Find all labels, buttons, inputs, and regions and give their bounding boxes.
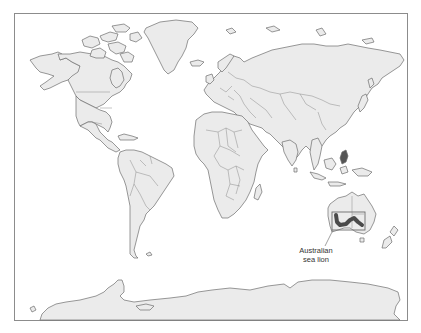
south-america (118, 150, 174, 258)
africa (194, 112, 268, 218)
label-line-1: Australian (286, 246, 346, 255)
label-leader-line (325, 230, 333, 246)
north-america (30, 20, 204, 152)
australia (325, 192, 398, 248)
antarctica (30, 280, 400, 320)
world-map (0, 0, 421, 333)
label-line-2: sea lion (286, 255, 346, 264)
australian-sea-lion-label: Australian sea lion (286, 246, 346, 264)
